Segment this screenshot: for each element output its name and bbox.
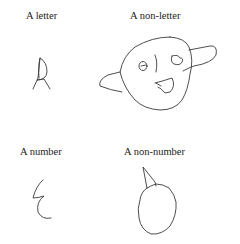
number-drawing [33,180,51,218]
letter-a-drawing [33,58,50,89]
non-letter-drawing [100,37,217,110]
non-number-drawing [138,167,176,234]
drawings-canvas [0,0,240,244]
